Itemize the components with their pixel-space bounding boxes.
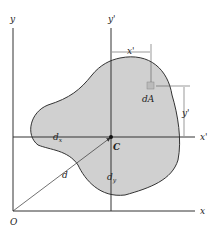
x-prime-dim-label: x' [127, 46, 135, 56]
x-prime-label: x' [200, 132, 208, 142]
y-prime-dim-label: y' [181, 108, 190, 118]
origin-label: O [10, 217, 18, 227]
dA-element [147, 82, 154, 89]
parallel-axis-diagram: y x O y' x' x' y' dA C dx dy d [0, 0, 221, 237]
y-axis-label: y [9, 14, 16, 24]
dA-label: dA [142, 94, 155, 104]
d-label: d [62, 170, 68, 180]
centroid-point [109, 135, 113, 139]
area-shape [31, 57, 180, 195]
x-axis-label: x [200, 206, 205, 216]
y-prime-label: y' [107, 14, 116, 24]
centroid-label: C [113, 142, 121, 152]
